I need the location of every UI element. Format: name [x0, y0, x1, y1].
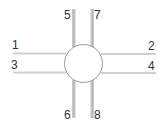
pin-label-3: 3 [11, 58, 18, 72]
pin-label-6: 6 [64, 108, 71, 122]
pin-label-1: 1 [12, 38, 19, 52]
pin-line-5 [73, 9, 76, 47]
pin-label-7: 7 [94, 8, 101, 22]
pin-line-6 [73, 80, 76, 118]
connector-circle [65, 45, 103, 83]
pin-label-8: 8 [94, 108, 101, 122]
connector-diagram: 1 2 3 4 5 6 7 8 [0, 0, 159, 126]
pin-label-2: 2 [148, 39, 155, 53]
pin-label-4: 4 [148, 59, 155, 73]
pin-label-5: 5 [64, 8, 71, 22]
